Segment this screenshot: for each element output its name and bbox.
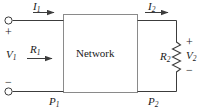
circuit-diagram-figure: Network I1 I2 V1 R1 R2 V2 P1 P2 + − + − (0, 0, 204, 112)
power-in-symbol: P (49, 95, 56, 107)
output-wires (138, 21, 177, 92)
voltage-out-label: V2 (186, 50, 196, 62)
voltage-out-subscript: 2 (193, 54, 197, 63)
power-out-symbol: P (148, 95, 155, 107)
output-positive-polarity-sign: + (186, 36, 193, 48)
resistance-load-label: R2 (160, 51, 170, 63)
power-out-subscript: 2 (155, 100, 159, 109)
resistance-load-subscript: 2 (167, 55, 171, 64)
voltage-in-label: V1 (6, 49, 16, 61)
power-out-label: P2 (148, 96, 158, 108)
resistance-in-subscript: 1 (37, 48, 41, 57)
current-out-subscript: 2 (152, 5, 156, 14)
voltage-in-symbol: V (6, 48, 13, 60)
resistance-in-label: R1 (30, 44, 40, 56)
power-in-label: P1 (49, 96, 59, 108)
current-out-label: I2 (148, 1, 155, 13)
network-box-label: Network (76, 48, 115, 59)
resistance-load-symbol: R (160, 50, 167, 62)
input-negative-polarity-sign: − (5, 76, 12, 88)
power-in-subscript: 1 (56, 100, 60, 109)
input-top-terminal (5, 17, 12, 24)
current-in-label: I1 (33, 1, 40, 13)
voltage-out-symbol: V (186, 49, 193, 61)
current-in-subscript: 1 (37, 5, 41, 14)
resistance-in-symbol: R (30, 43, 37, 55)
output-negative-polarity-sign: − (186, 64, 193, 76)
voltage-in-subscript: 1 (13, 53, 17, 62)
input-positive-polarity-sign: + (5, 26, 12, 38)
load-resistor-R2-symbol (173, 42, 181, 72)
